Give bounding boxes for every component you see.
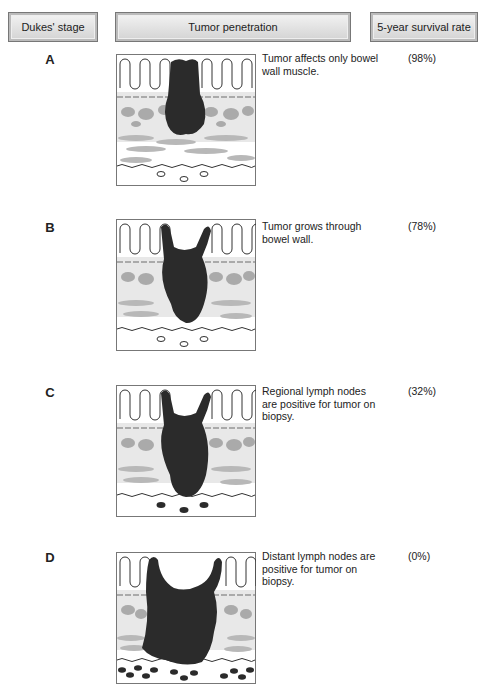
description-d: Distant lymph nodes are positive for tum… — [262, 550, 382, 588]
header-label: 5-year survival rate — [377, 21, 471, 33]
header-label: Tumor penetration — [188, 21, 277, 33]
survival-rate-a: (98%) — [408, 52, 436, 64]
header-label: Dukes' stage — [21, 21, 84, 33]
description-b: Tumor grows through bowel wall. — [262, 220, 382, 245]
tumor-illustration-b — [116, 219, 256, 351]
tumor-illustration-c — [116, 385, 256, 517]
tumor-illustration-d — [116, 552, 256, 684]
tumor-illustration-a — [116, 54, 256, 186]
stage-label-d: D — [40, 550, 60, 565]
header-tumor-penetration: Tumor penetration — [115, 12, 351, 42]
survival-rate-c: (32%) — [408, 385, 436, 397]
stage-label-a: A — [40, 52, 60, 67]
stage-label-c: C — [40, 385, 60, 400]
description-c: Regional lymph nodes are positive for tu… — [262, 385, 382, 423]
survival-rate-b: (78%) — [408, 220, 436, 232]
stage-label-b: B — [40, 220, 60, 235]
survival-rate-d: (0%) — [408, 550, 430, 562]
description-a: Tumor affects only bowel wall muscle. — [262, 52, 382, 77]
header-dukes-stage: Dukes' stage — [8, 12, 98, 42]
header-survival-rate: 5-year survival rate — [370, 12, 478, 42]
